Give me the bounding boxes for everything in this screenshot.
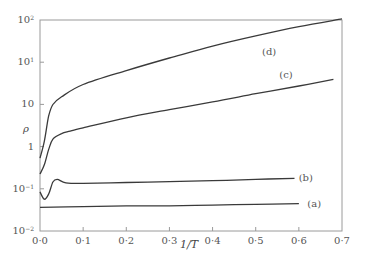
data-curves bbox=[40, 19, 342, 208]
y-tick-label: 10 bbox=[4, 99, 34, 109]
y-tick-label: 10−1 bbox=[4, 184, 34, 194]
y-tick-label: 102 bbox=[4, 15, 34, 25]
y-axis-label: ρ bbox=[23, 124, 29, 134]
y-tick-label: 10−2 bbox=[4, 226, 34, 236]
y-tick-label: 1 bbox=[4, 142, 34, 152]
x-tick-label: 0·5 bbox=[244, 236, 268, 246]
x-tick-label: 0·4 bbox=[201, 236, 225, 246]
x-tick-label: 0·6 bbox=[287, 236, 311, 246]
x-axis-label: 1/T bbox=[180, 240, 198, 250]
x-tick-label: 0·1 bbox=[71, 236, 95, 246]
curve-a bbox=[40, 204, 299, 208]
curve-c bbox=[40, 79, 333, 174]
curve-d bbox=[40, 19, 342, 158]
curve-b bbox=[40, 178, 295, 199]
x-tick-label: 0·2 bbox=[114, 236, 138, 246]
series-label-d: (d) bbox=[262, 47, 276, 57]
y-tick-label: 101 bbox=[4, 57, 34, 67]
series-label-c: (c) bbox=[279, 70, 292, 80]
chart-plot-area bbox=[0, 0, 366, 267]
x-tick-label: 0·3 bbox=[157, 236, 181, 246]
x-tick-label: 0·0 bbox=[28, 236, 52, 246]
series-label-b: (b) bbox=[299, 173, 313, 183]
series-label-a: (a) bbox=[307, 199, 321, 209]
x-tick-label: 0·7 bbox=[330, 236, 354, 246]
